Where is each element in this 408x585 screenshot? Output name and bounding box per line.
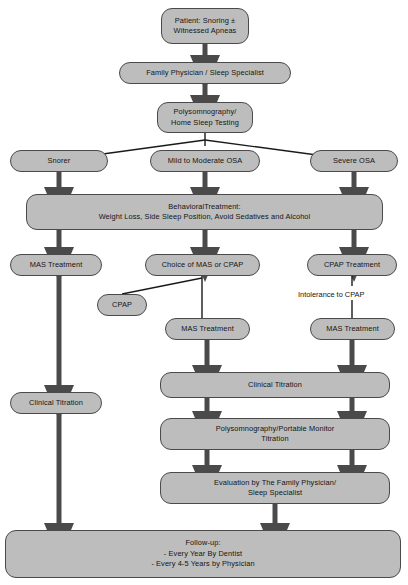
node-mild-to-moderate-osa[interactable]: Mild to Moderate OSA xyxy=(150,150,260,172)
flowchart-canvas: Patient: Snoring ±Witnessed Apneas Famil… xyxy=(0,0,408,585)
node-mas-treatment-middle[interactable]: MAS Treatment xyxy=(165,318,250,340)
node-severe-osa-label: Severe OSA xyxy=(315,156,393,167)
node-followup[interactable]: Follow-up:- Every Year By Dentist- Every… xyxy=(5,530,401,578)
node-family-physician-sleep-specialist[interactable]: Family Physician / Sleep Specialist xyxy=(119,62,291,84)
node-mas-treatment-left-label: MAS Treatment xyxy=(15,260,97,271)
node-cpap[interactable]: CPAP xyxy=(97,294,147,316)
node-severe-osa[interactable]: Severe OSA xyxy=(310,150,398,172)
node-mas-treatment-middle-label: MAS Treatment xyxy=(170,324,245,335)
node-cpap-treatment-label: CPAP Treatment xyxy=(312,260,392,271)
node-clinical-titration-middle-label: Clinical Titration xyxy=(165,380,385,391)
node-family-physician-label: Family Physician / Sleep Specialist xyxy=(124,68,286,79)
node-evaluation-family-physician[interactable]: Evaluation by The Family Physician/Sleep… xyxy=(160,472,390,504)
node-behavioral-treatment-label: BehavioralTreatment:Weight Loss, Side Sl… xyxy=(31,202,378,223)
node-evaluation-label: Evaluation by The Family Physician/Sleep… xyxy=(165,478,385,499)
node-mas-treatment-right[interactable]: MAS Treatment xyxy=(310,318,395,340)
edge-label-intolerance-to-cpap: Intolerance to CPAP xyxy=(296,290,366,300)
node-cpap-treatment[interactable]: CPAP Treatment xyxy=(307,254,397,276)
node-behavioral-treatment[interactable]: BehavioralTreatment:Weight Loss, Side Sl… xyxy=(26,194,383,230)
node-mild-moderate-osa-label: Mild to Moderate OSA xyxy=(155,156,255,167)
node-clinical-titration-left[interactable]: Clinical Titration xyxy=(10,392,102,414)
node-psg-titration-label: Polysomnography/Portable MonitorTitratio… xyxy=(165,424,385,445)
node-clinical-titration-middle[interactable]: Clinical Titration xyxy=(160,372,390,398)
node-mas-treatment-right-label: MAS Treatment xyxy=(315,324,390,335)
node-polysomnography-home-sleep-testing[interactable]: Polysomnography/Home Sleep Testing xyxy=(157,102,253,133)
node-clinical-titration-left-label: Clinical Titration xyxy=(15,398,97,409)
node-patient[interactable]: Patient: Snoring ±Witnessed Apneas xyxy=(161,8,249,44)
node-patient-label: Patient: Snoring ±Witnessed Apneas xyxy=(166,16,244,37)
node-snorer-label: Snorer xyxy=(15,156,103,167)
node-choice-of-mas-or-cpap[interactable]: Choice of MAS or CPAP xyxy=(145,254,260,276)
node-followup-label: Follow-up:- Every Year By Dentist- Every… xyxy=(10,538,396,570)
node-choice-label: Choice of MAS or CPAP xyxy=(150,260,255,271)
node-snorer[interactable]: Snorer xyxy=(10,150,108,172)
node-polysomnography-label: Polysomnography/Home Sleep Testing xyxy=(162,107,248,128)
node-psg-portable-monitor-titration[interactable]: Polysomnography/Portable MonitorTitratio… xyxy=(160,418,390,450)
node-cpap-label: CPAP xyxy=(102,300,142,311)
node-mas-treatment-left[interactable]: MAS Treatment xyxy=(10,254,102,276)
